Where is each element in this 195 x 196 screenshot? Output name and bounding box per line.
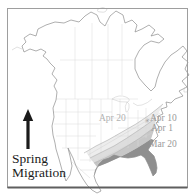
isochrone-label-apr1: Apr 1 [151, 123, 173, 133]
coast-marker-icon: ✳ [145, 117, 151, 125]
isochrone-label-mar20: Mar 20 [149, 139, 177, 149]
isochrone-label-apr10: Apr 10 [150, 113, 177, 123]
north-america-map: Apr 20 Apr 10 Apr 1 Mar 20 ✳ Spring Migr… [0, 0, 195, 196]
migration-direction-arrow [23, 109, 33, 149]
map-figure: Apr 20 Apr 10 Apr 1 Mar 20 ✳ Spring Migr… [0, 0, 195, 196]
caption-spring: Spring [12, 151, 48, 166]
aleutian-chain [12, 47, 22, 50]
caption-migration: Migration [12, 165, 66, 180]
isochrone-label-apr20: Apr 20 [99, 113, 126, 123]
